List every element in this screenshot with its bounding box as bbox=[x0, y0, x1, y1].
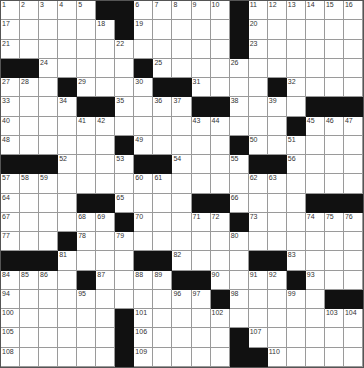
letter-cell[interactable]: 31 bbox=[192, 78, 211, 97]
letter-cell[interactable]: 4 bbox=[58, 1, 77, 20]
letter-cell[interactable] bbox=[268, 309, 287, 328]
letter-cell[interactable] bbox=[211, 78, 230, 97]
letter-cell[interactable] bbox=[325, 59, 344, 78]
letter-cell[interactable]: 84 bbox=[1, 271, 20, 290]
letter-cell[interactable] bbox=[172, 136, 191, 155]
letter-cell[interactable] bbox=[96, 251, 115, 270]
letter-cell[interactable] bbox=[230, 251, 249, 270]
letter-cell[interactable]: 7 bbox=[153, 1, 172, 20]
letter-cell[interactable]: 42 bbox=[96, 117, 115, 136]
letter-cell[interactable] bbox=[287, 232, 306, 251]
letter-cell[interactable]: 19 bbox=[134, 20, 153, 39]
letter-cell[interactable] bbox=[39, 194, 58, 213]
letter-cell[interactable]: 25 bbox=[153, 59, 172, 78]
letter-cell[interactable] bbox=[306, 232, 325, 251]
letter-cell[interactable] bbox=[325, 251, 344, 270]
letter-cell[interactable] bbox=[172, 40, 191, 59]
letter-cell[interactable]: 89 bbox=[153, 271, 172, 290]
letter-cell[interactable] bbox=[306, 174, 325, 193]
letter-cell[interactable] bbox=[77, 20, 96, 39]
letter-cell[interactable] bbox=[115, 271, 134, 290]
letter-cell[interactable]: 12 bbox=[268, 1, 287, 20]
letter-cell[interactable] bbox=[39, 97, 58, 116]
letter-cell[interactable]: 105 bbox=[1, 328, 20, 347]
letter-cell[interactable] bbox=[211, 328, 230, 347]
letter-cell[interactable] bbox=[39, 309, 58, 328]
letter-cell[interactable]: 101 bbox=[134, 309, 153, 328]
letter-cell[interactable]: 52 bbox=[58, 155, 77, 174]
letter-cell[interactable] bbox=[20, 213, 39, 232]
letter-cell[interactable] bbox=[153, 232, 172, 251]
letter-cell[interactable]: 8 bbox=[172, 1, 191, 20]
letter-cell[interactable] bbox=[249, 232, 268, 251]
letter-cell[interactable]: 71 bbox=[192, 213, 211, 232]
letter-cell[interactable]: 10 bbox=[211, 1, 230, 20]
letter-cell[interactable]: 30 bbox=[134, 78, 153, 97]
letter-cell[interactable]: 56 bbox=[287, 155, 306, 174]
letter-cell[interactable]: 26 bbox=[230, 59, 249, 78]
letter-cell[interactable] bbox=[39, 290, 58, 309]
letter-cell[interactable] bbox=[306, 155, 325, 174]
letter-cell[interactable]: 97 bbox=[192, 290, 211, 309]
letter-cell[interactable] bbox=[20, 136, 39, 155]
letter-cell[interactable] bbox=[249, 59, 268, 78]
letter-cell[interactable]: 94 bbox=[1, 290, 20, 309]
letter-cell[interactable] bbox=[287, 20, 306, 39]
letter-cell[interactable] bbox=[39, 78, 58, 97]
letter-cell[interactable] bbox=[268, 328, 287, 347]
letter-cell[interactable]: 70 bbox=[134, 213, 153, 232]
letter-cell[interactable] bbox=[115, 290, 134, 309]
letter-cell[interactable] bbox=[344, 40, 363, 59]
letter-cell[interactable] bbox=[306, 328, 325, 347]
letter-cell[interactable]: 49 bbox=[134, 136, 153, 155]
letter-cell[interactable]: 76 bbox=[344, 213, 363, 232]
letter-cell[interactable] bbox=[39, 136, 58, 155]
letter-cell[interactable] bbox=[96, 290, 115, 309]
letter-cell[interactable] bbox=[268, 59, 287, 78]
letter-cell[interactable] bbox=[268, 232, 287, 251]
letter-cell[interactable] bbox=[39, 40, 58, 59]
letter-cell[interactable]: 3 bbox=[39, 1, 58, 20]
letter-cell[interactable] bbox=[344, 251, 363, 270]
letter-cell[interactable]: 103 bbox=[325, 309, 344, 328]
letter-cell[interactable] bbox=[211, 251, 230, 270]
letter-cell[interactable] bbox=[306, 40, 325, 59]
letter-cell[interactable]: 34 bbox=[58, 97, 77, 116]
letter-cell[interactable] bbox=[249, 97, 268, 116]
letter-cell[interactable] bbox=[96, 78, 115, 97]
letter-cell[interactable] bbox=[77, 309, 96, 328]
letter-cell[interactable] bbox=[211, 20, 230, 39]
letter-cell[interactable] bbox=[20, 290, 39, 309]
letter-cell[interactable] bbox=[39, 232, 58, 251]
letter-cell[interactable] bbox=[96, 328, 115, 347]
letter-cell[interactable] bbox=[77, 174, 96, 193]
letter-cell[interactable] bbox=[211, 232, 230, 251]
letter-cell[interactable]: 61 bbox=[153, 174, 172, 193]
letter-cell[interactable] bbox=[325, 78, 344, 97]
letter-cell[interactable] bbox=[58, 117, 77, 136]
letter-cell[interactable] bbox=[211, 40, 230, 59]
letter-cell[interactable]: 29 bbox=[77, 78, 96, 97]
letter-cell[interactable] bbox=[192, 174, 211, 193]
letter-cell[interactable]: 110 bbox=[268, 348, 287, 367]
letter-cell[interactable]: 90 bbox=[211, 271, 230, 290]
letter-cell[interactable] bbox=[306, 59, 325, 78]
letter-cell[interactable] bbox=[287, 213, 306, 232]
letter-cell[interactable]: 82 bbox=[172, 251, 191, 270]
letter-cell[interactable]: 40 bbox=[1, 117, 20, 136]
letter-cell[interactable] bbox=[325, 328, 344, 347]
letter-cell[interactable] bbox=[344, 59, 363, 78]
letter-cell[interactable]: 48 bbox=[1, 136, 20, 155]
letter-cell[interactable]: 35 bbox=[115, 97, 134, 116]
letter-cell[interactable]: 60 bbox=[134, 174, 153, 193]
letter-cell[interactable] bbox=[153, 40, 172, 59]
letter-cell[interactable] bbox=[115, 117, 134, 136]
letter-cell[interactable] bbox=[287, 174, 306, 193]
letter-cell[interactable] bbox=[20, 40, 39, 59]
letter-cell[interactable]: 83 bbox=[287, 251, 306, 270]
letter-cell[interactable]: 93 bbox=[306, 271, 325, 290]
letter-cell[interactable] bbox=[306, 20, 325, 39]
letter-cell[interactable] bbox=[77, 348, 96, 367]
letter-cell[interactable]: 75 bbox=[325, 213, 344, 232]
letter-cell[interactable] bbox=[39, 20, 58, 39]
